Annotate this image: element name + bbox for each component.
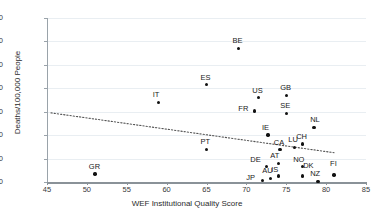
y-axis-line xyxy=(47,18,48,182)
gridline xyxy=(47,41,366,42)
data-point xyxy=(93,172,96,175)
data-point-label: NL xyxy=(310,116,320,124)
data-point xyxy=(277,174,280,177)
y-tick-label: 20 xyxy=(0,155,3,163)
x-tick-mark xyxy=(87,182,88,185)
gridline xyxy=(47,112,366,113)
data-point-label: FI xyxy=(330,160,337,168)
data-point xyxy=(205,148,208,151)
data-point xyxy=(312,126,315,129)
data-point xyxy=(261,179,264,182)
gridline xyxy=(47,135,366,136)
scatter-chart: 020406080100120140 455055606570758085 GR… xyxy=(0,0,374,219)
data-point-label: CH xyxy=(296,133,307,141)
x-tick-mark xyxy=(47,182,48,185)
data-point-label: PT xyxy=(201,138,211,146)
data-point xyxy=(285,94,288,97)
x-tick-mark xyxy=(207,182,208,185)
x-tick-label: 55 xyxy=(112,185,142,194)
x-tick-label: 75 xyxy=(271,185,301,194)
data-point-label: GR xyxy=(89,163,100,171)
data-point-label: DK xyxy=(303,162,313,170)
y-tick-label: 120 xyxy=(0,37,3,45)
y-tick-label: 80 xyxy=(0,84,3,92)
x-tick-label: 50 xyxy=(72,185,102,194)
x-tick-label: 70 xyxy=(231,185,261,194)
data-point-label: IT xyxy=(153,91,160,99)
data-point-label: ES xyxy=(201,74,211,82)
gridline xyxy=(47,18,366,19)
data-point-label: FR xyxy=(238,105,248,113)
x-tick-label: 65 xyxy=(192,185,222,194)
data-point-label: GB xyxy=(280,84,291,92)
y-tick-label: 140 xyxy=(0,14,3,22)
data-point xyxy=(266,133,269,136)
plot-area xyxy=(47,18,366,182)
y-tick-mark xyxy=(44,112,47,113)
x-tick-mark xyxy=(127,182,128,185)
data-point xyxy=(253,109,256,112)
y-tick-mark xyxy=(44,41,47,42)
data-point-label: IS xyxy=(271,166,278,174)
data-point xyxy=(293,146,296,149)
data-point xyxy=(332,173,335,176)
x-tick-mark xyxy=(366,182,367,185)
x-tick-label: 60 xyxy=(152,185,182,194)
x-axis-title: WEF Institutional Quality Score xyxy=(0,199,374,208)
y-tick-label: 0 xyxy=(0,178,3,186)
x-tick-label: 80 xyxy=(311,185,341,194)
y-tick-mark xyxy=(44,159,47,160)
y-tick-label: 60 xyxy=(0,108,3,116)
data-point-label: DE xyxy=(250,156,260,164)
data-point-label: JP xyxy=(246,174,255,182)
x-tick-mark xyxy=(246,182,247,185)
x-tick-label: 45 xyxy=(32,185,62,194)
y-tick-mark xyxy=(44,65,47,66)
data-point xyxy=(316,180,319,183)
gridline xyxy=(47,65,366,66)
x-tick-mark xyxy=(326,182,327,185)
y-tick-mark xyxy=(44,135,47,136)
data-point xyxy=(301,174,304,177)
data-point xyxy=(285,112,288,115)
data-point-label: IE xyxy=(262,124,269,132)
data-point xyxy=(278,148,281,151)
data-point-label: US xyxy=(252,87,262,95)
data-point-label: AT xyxy=(270,152,279,160)
data-point xyxy=(301,142,304,145)
y-tick-label: 40 xyxy=(0,131,3,139)
gridline xyxy=(47,159,366,160)
y-tick-mark xyxy=(44,88,47,89)
x-tick-mark xyxy=(167,182,168,185)
gridline xyxy=(47,88,366,89)
data-point-label: CA xyxy=(274,139,284,147)
data-point-label: BE xyxy=(232,37,242,45)
y-tick-mark xyxy=(44,18,47,19)
y-tick-label: 100 xyxy=(0,61,3,69)
data-point-label: NZ xyxy=(310,170,320,178)
data-point-label: SE xyxy=(280,102,290,110)
y-axis-title: Deaths/100,000 People xyxy=(13,33,22,153)
x-tick-mark xyxy=(286,182,287,185)
x-tick-label: 85 xyxy=(351,185,374,194)
